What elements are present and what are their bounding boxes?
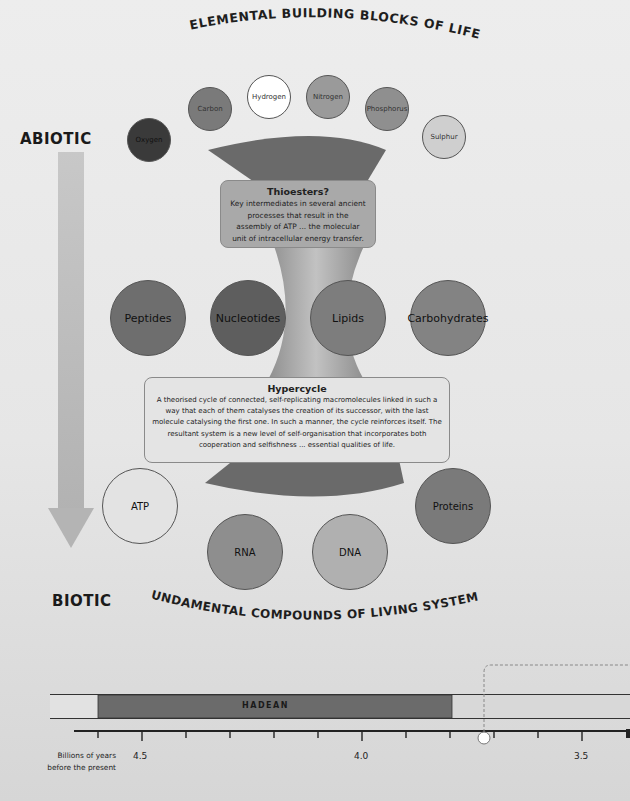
abiotic-to-biotic-arrow <box>48 152 94 548</box>
axis-caption-line1: Billions of years <box>40 750 116 762</box>
abiotic-label: ABIOTIC <box>20 130 92 148</box>
element-nitrogen: Nitrogen <box>306 75 350 119</box>
compound-proteins: Proteins <box>415 468 491 544</box>
element-carbon: Carbon <box>188 87 232 131</box>
hadean-label: HADEAN <box>242 701 289 710</box>
thioesters-title: Thioesters? <box>221 186 375 197</box>
monomer-peptides: Peptides <box>110 280 186 356</box>
element-sulphur: Sulphur <box>422 115 466 159</box>
timeline <box>50 665 630 744</box>
monomer-carbohydrates: Carbohydrates <box>410 280 486 356</box>
compound-rna: RNA <box>207 514 283 590</box>
timeline-marker <box>478 732 490 744</box>
tick-label-4-5: 4.5 <box>133 751 147 761</box>
tick-label-4-0: 4.0 <box>354 751 368 761</box>
hypercycle-box: Hypercycle A theorised cycle of connecte… <box>144 377 450 463</box>
top-arc-title: ELEMENTAL BUILDING BLOCKS OF LIFE <box>188 5 482 42</box>
compound-atp: ATP <box>102 468 178 544</box>
hypercycle-body: A theorised cycle of connected, self-rep… <box>145 395 449 451</box>
thioesters-box: Thioesters? Key intermediates in several… <box>220 180 376 248</box>
element-hydrogen: Hydrogen <box>247 75 291 119</box>
monomer-nucleotides: Nucleotides <box>210 280 286 356</box>
tick-label-3-5: 3.5 <box>574 751 588 761</box>
axis-caption-line2: before the present <box>40 762 116 774</box>
axis-caption: Billions of years before the present <box>40 750 116 774</box>
hypercycle-title: Hypercycle <box>145 383 449 394</box>
compound-dna: DNA <box>312 514 388 590</box>
biotic-label: BIOTIC <box>52 592 112 610</box>
monomer-lipids: Lipids <box>310 280 386 356</box>
element-oxygen: Oxygen <box>127 118 171 162</box>
thioesters-body: Key intermediates in several ancient pro… <box>221 198 375 244</box>
element-phosphorus: Phosphorus <box>365 87 409 131</box>
